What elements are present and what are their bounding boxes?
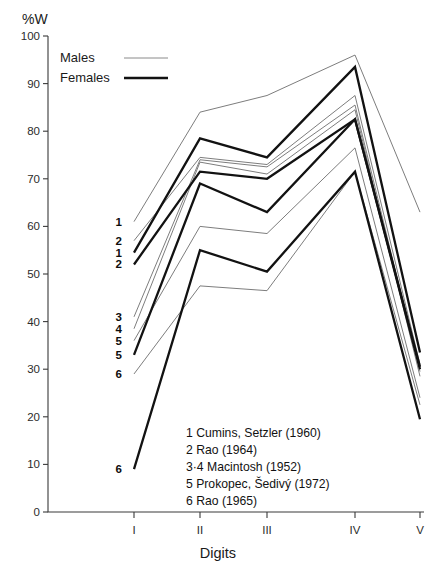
x-tick-label: II (197, 524, 203, 536)
note-item: 2 Rao (1964) (186, 443, 257, 457)
series-label-1: 1 (116, 247, 123, 259)
note-item: 6 Rao (1965) (186, 494, 257, 508)
y-tick-label: 90 (27, 78, 40, 90)
y-axis-title: %W (22, 11, 48, 27)
y-tick-label: 10 (27, 458, 40, 470)
series-label-2: 2 (116, 258, 122, 270)
x-tick-label: I (132, 524, 135, 536)
series-lines (134, 55, 420, 469)
y-tick-label: 30 (27, 363, 40, 375)
note-item: 5 Prokopec, Šedivý (1972) (186, 476, 330, 491)
legend: MalesFemales (60, 50, 168, 85)
series-line-1-females (134, 67, 420, 353)
series-line-3-males (134, 105, 420, 372)
series-label-1: 1 (116, 216, 123, 228)
y-tick-label: 100 (21, 30, 40, 42)
chart-figure: 0102030405060708090100IIIIIIIVV 12123455… (0, 0, 437, 566)
x-tick-label: IV (350, 524, 361, 536)
note-item: 3·4 Macintosh (1952) (186, 460, 301, 474)
note-item: 1 Cumins, Setzler (1960) (186, 426, 321, 440)
y-tick-label: 60 (27, 220, 40, 232)
series-label-5: 5 (116, 335, 123, 347)
series-line-6-females (134, 172, 420, 470)
x-axis-title: Digits (200, 545, 236, 561)
series-label-4: 4 (116, 323, 123, 335)
y-tick-label: 20 (27, 411, 40, 423)
x-tick-label: III (262, 524, 272, 536)
series-label-5: 5 (116, 349, 123, 361)
series-point-labels: 1212345566 (116, 216, 123, 476)
reference-notes: 1 Cumins, Setzler (1960)2 Rao (1964)3·4 … (186, 426, 330, 508)
series-label-6: 6 (116, 463, 122, 475)
series-label-2: 2 (116, 235, 122, 247)
y-tick-label: 80 (27, 125, 40, 137)
legend-label-females: Females (60, 70, 110, 85)
y-tick-label: 70 (27, 173, 40, 185)
axis-lines (48, 36, 424, 512)
series-label-6: 6 (116, 368, 122, 380)
x-tick-label: V (416, 524, 424, 536)
series-label-3: 3 (116, 311, 122, 323)
y-tick-label: 40 (27, 316, 40, 328)
legend-label-males: Males (60, 50, 95, 65)
y-tick-label: 0 (34, 506, 40, 518)
line-chart-canvas: 0102030405060708090100IIIIIIIVV 12123455… (0, 0, 437, 566)
y-tick-label: 50 (27, 268, 40, 280)
